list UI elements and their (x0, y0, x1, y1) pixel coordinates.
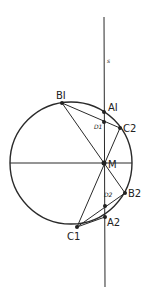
label-a2: A2 (107, 217, 120, 228)
point-c1 (75, 225, 79, 229)
label-a1: AI (108, 102, 118, 113)
label-line-s: s (107, 57, 110, 64)
point-a1 (102, 110, 106, 114)
geometry-diagram: s BI AI D1 C2 M B2 D2 A2 C1 (0, 0, 148, 298)
point-c2 (118, 126, 122, 130)
point-m (102, 161, 107, 166)
label-b1: BI (56, 90, 66, 101)
line-s (104, 17, 105, 287)
point-b2 (123, 191, 127, 195)
point-b1 (60, 101, 64, 105)
label-c1: C1 (67, 231, 80, 242)
label-d1: D1 (94, 123, 102, 130)
point-d2 (103, 204, 107, 208)
label-b2: B2 (128, 188, 141, 199)
label-m: M (108, 159, 117, 170)
point-d1 (102, 120, 106, 124)
label-c2: C2 (123, 123, 136, 134)
label-d2: D2 (104, 191, 113, 198)
